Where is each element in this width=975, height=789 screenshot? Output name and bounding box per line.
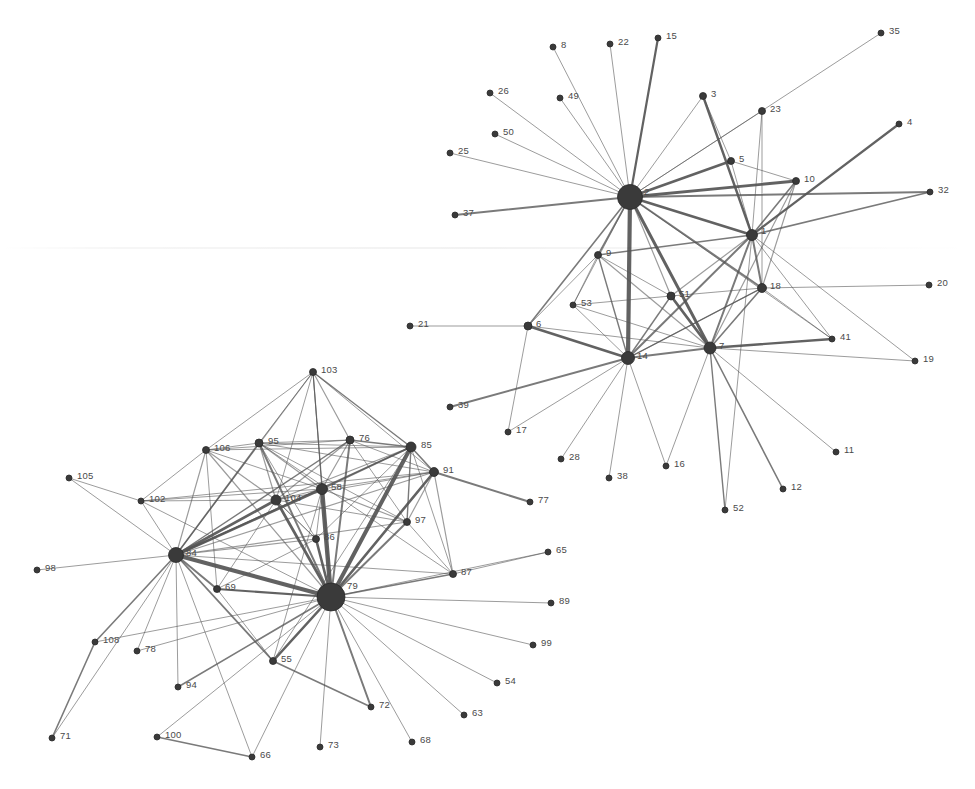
graph-node[interactable] bbox=[927, 189, 933, 195]
graph-node-label: 28 bbox=[569, 451, 580, 462]
graph-node[interactable] bbox=[494, 680, 500, 686]
graph-node[interactable] bbox=[663, 463, 669, 469]
graph-node-label: 8 bbox=[561, 39, 566, 50]
graph-node-label: 91 bbox=[443, 464, 454, 475]
graph-node[interactable] bbox=[175, 684, 181, 690]
graph-node[interactable] bbox=[793, 178, 800, 185]
graph-node[interactable] bbox=[926, 282, 932, 288]
graph-node[interactable] bbox=[704, 342, 716, 354]
graph-node[interactable] bbox=[667, 292, 675, 300]
graph-node-label: 49 bbox=[568, 90, 579, 101]
graph-node[interactable] bbox=[747, 230, 758, 241]
graph-node[interactable] bbox=[447, 150, 453, 156]
graph-node-label: 52 bbox=[733, 502, 744, 513]
graph-node[interactable] bbox=[728, 158, 735, 165]
graph-node[interactable] bbox=[169, 548, 184, 563]
graph-node[interactable] bbox=[249, 754, 255, 760]
graph-node-label: 102 bbox=[149, 493, 165, 504]
graph-node[interactable] bbox=[404, 519, 411, 526]
graph-node[interactable] bbox=[134, 648, 140, 654]
graph-node[interactable] bbox=[461, 712, 467, 718]
graph-node[interactable] bbox=[655, 35, 661, 41]
graph-node-label: 50 bbox=[503, 126, 514, 137]
graph-node-label: 25 bbox=[458, 145, 469, 156]
graph-node[interactable] bbox=[447, 404, 453, 410]
graph-node-label: 73 bbox=[328, 739, 339, 750]
graph-node[interactable] bbox=[487, 90, 493, 96]
graph-node-label: 78 bbox=[145, 643, 156, 654]
graph-node[interactable] bbox=[313, 536, 320, 543]
graph-node[interactable] bbox=[317, 744, 323, 750]
graph-node[interactable] bbox=[595, 252, 602, 259]
graph-node[interactable] bbox=[450, 571, 457, 578]
graph-node[interactable] bbox=[214, 586, 221, 593]
graph-node[interactable] bbox=[570, 302, 576, 308]
graph-node[interactable] bbox=[780, 486, 786, 492]
graph-node[interactable] bbox=[317, 583, 345, 611]
graph-node[interactable] bbox=[622, 352, 635, 365]
graph-node[interactable] bbox=[407, 323, 413, 329]
graph-node[interactable] bbox=[310, 369, 317, 376]
graph-node[interactable] bbox=[92, 639, 98, 645]
graph-node[interactable] bbox=[606, 475, 612, 481]
graph-node[interactable] bbox=[829, 336, 835, 342]
graph-node[interactable] bbox=[700, 93, 707, 100]
graph-node-label: 87 bbox=[461, 566, 472, 577]
graph-node[interactable] bbox=[49, 735, 55, 741]
graph-node[interactable] bbox=[270, 658, 277, 665]
graph-node[interactable] bbox=[607, 41, 613, 47]
graph-node[interactable] bbox=[530, 642, 536, 648]
network-graph-canvas: 2114718516951032353822153549265025374322… bbox=[0, 0, 975, 789]
graph-node[interactable] bbox=[527, 499, 533, 505]
graph-node[interactable] bbox=[346, 436, 354, 444]
graph-node[interactable] bbox=[505, 429, 511, 435]
graph-background bbox=[0, 0, 975, 789]
graph-node[interactable] bbox=[878, 30, 884, 36]
graph-node-label: 35 bbox=[889, 25, 900, 36]
graph-node[interactable] bbox=[430, 468, 439, 477]
graph-node[interactable] bbox=[138, 498, 144, 504]
graph-node-label: 41 bbox=[840, 331, 851, 342]
graph-node[interactable] bbox=[722, 507, 728, 513]
graph-node-label: 23 bbox=[770, 103, 781, 114]
graph-node-label: 86 bbox=[324, 531, 335, 542]
graph-node[interactable] bbox=[557, 95, 563, 101]
graph-node-label: 14 bbox=[637, 350, 648, 361]
graph-node-label: 19 bbox=[923, 353, 934, 364]
graph-node-label: 22 bbox=[618, 36, 629, 47]
graph-node-label: 21 bbox=[418, 318, 429, 329]
graph-node-label: 53 bbox=[581, 297, 592, 308]
graph-node-label: 84 bbox=[186, 547, 197, 558]
graph-node[interactable] bbox=[154, 734, 160, 740]
graph-node[interactable] bbox=[550, 44, 556, 50]
graph-node[interactable] bbox=[912, 358, 918, 364]
graph-node[interactable] bbox=[66, 475, 72, 481]
graph-node[interactable] bbox=[409, 739, 415, 745]
graph-node[interactable] bbox=[618, 185, 643, 210]
graph-node[interactable] bbox=[758, 284, 767, 293]
graph-node-label: 7 bbox=[719, 340, 724, 351]
graph-node[interactable] bbox=[759, 108, 766, 115]
graph-node[interactable] bbox=[368, 704, 374, 710]
graph-node[interactable] bbox=[255, 439, 263, 447]
graph-node[interactable] bbox=[558, 456, 564, 462]
graph-node-label: 94 bbox=[186, 679, 197, 690]
graph-node-label: 97 bbox=[415, 514, 426, 525]
graph-node[interactable] bbox=[896, 121, 902, 127]
graph-node-label: 103 bbox=[321, 364, 337, 375]
graph-node-label: 37 bbox=[463, 207, 474, 218]
graph-node[interactable] bbox=[492, 131, 498, 137]
graph-node[interactable] bbox=[545, 549, 551, 555]
graph-node-label: 63 bbox=[472, 707, 483, 718]
graph-node[interactable] bbox=[548, 600, 554, 606]
graph-node[interactable] bbox=[833, 449, 839, 455]
graph-node-label: 5 bbox=[739, 153, 744, 164]
graph-node[interactable] bbox=[452, 212, 458, 218]
graph-node[interactable] bbox=[34, 567, 40, 573]
graph-node[interactable] bbox=[203, 447, 210, 454]
graph-node[interactable] bbox=[406, 442, 416, 452]
graph-node[interactable] bbox=[524, 322, 532, 330]
graph-node[interactable] bbox=[271, 495, 281, 505]
graph-node-label: 4 bbox=[907, 116, 912, 127]
graph-node[interactable] bbox=[317, 484, 328, 495]
